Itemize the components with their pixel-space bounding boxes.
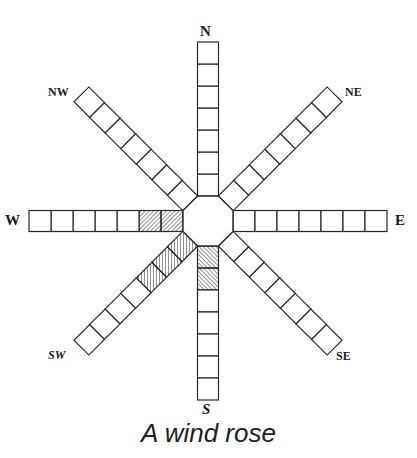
arm-n [198, 42, 219, 196]
empty-cell [198, 152, 219, 174]
empty-cell [198, 64, 219, 86]
arm-w [29, 211, 183, 232]
hatched-cell [198, 246, 219, 268]
empty-cell [198, 356, 219, 378]
empty-cell [198, 378, 219, 400]
hatched-cell [139, 211, 161, 232]
empty-cell [299, 211, 321, 232]
empty-cell [365, 211, 387, 232]
empty-cell [117, 211, 139, 232]
empty-cell [198, 42, 219, 64]
empty-cell [51, 211, 73, 232]
empty-cell [198, 334, 219, 356]
empty-cell [198, 312, 219, 334]
arm-se [218, 231, 342, 355]
label-northwest: NW [48, 86, 69, 98]
empty-cell [198, 86, 219, 108]
arm-nw [74, 87, 198, 211]
arm-s [198, 246, 219, 400]
empty-cell [73, 211, 95, 232]
arm-sw [74, 231, 198, 355]
empty-cell [198, 174, 219, 196]
empty-cell [198, 108, 219, 130]
empty-cell [29, 211, 51, 232]
empty-cell [277, 211, 299, 232]
label-north: N [200, 24, 211, 39]
wind-rose-diagram [0, 0, 417, 458]
diagram-caption: A wind rose [0, 420, 417, 446]
center-octagon [183, 196, 233, 246]
empty-cell [255, 211, 277, 232]
empty-cell [321, 211, 343, 232]
hatched-cell [161, 211, 183, 232]
empty-cell [95, 211, 117, 232]
label-east: E [395, 213, 405, 228]
label-south: S [202, 402, 210, 417]
label-southwest: SW [48, 349, 65, 361]
label-west: W [5, 213, 20, 228]
empty-cell [233, 211, 255, 232]
empty-cell [198, 130, 219, 152]
arm-e [233, 211, 387, 232]
arm-ne [218, 87, 342, 211]
empty-cell [343, 211, 365, 232]
label-southeast: SE [336, 350, 351, 362]
hatched-cell [198, 268, 219, 290]
empty-cell [198, 290, 219, 312]
label-northeast: NE [345, 86, 362, 98]
